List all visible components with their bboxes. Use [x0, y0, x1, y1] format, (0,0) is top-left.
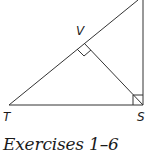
- hypotenuse: [9, 0, 138, 105]
- label-v: V: [76, 24, 85, 38]
- exercise-caption: Exercises 1–6: [3, 134, 119, 154]
- label-s: S: [137, 110, 145, 124]
- altitude-sv: [84, 43, 143, 105]
- right-angle-marker-v: [77, 49, 91, 56]
- label-t: T: [3, 110, 12, 124]
